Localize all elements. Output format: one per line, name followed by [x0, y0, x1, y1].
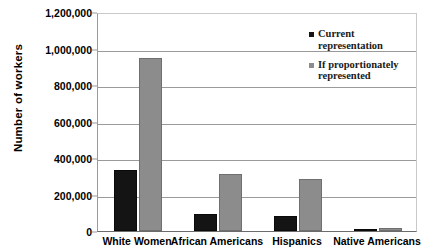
- chart-legend: CurrentrepresentationIf proportionatelyr…: [309, 28, 421, 89]
- legend-item: Currentrepresentation: [309, 28, 421, 52]
- y-axis-tick-label: 200,000: [54, 190, 92, 202]
- bar-chart: Number of workers 1,200,0001,000,000800,…: [0, 0, 425, 251]
- x-axis-tick-label: Native Americans: [333, 235, 421, 247]
- y-axis-title: Number of workers: [12, 18, 24, 178]
- bar: [194, 214, 217, 231]
- bar: [139, 58, 162, 231]
- black-square-icon: [309, 32, 314, 37]
- bar: [299, 179, 322, 231]
- y-axis-tick-label: 1,000,000: [45, 44, 92, 56]
- y-axis-tick-label: 800,000: [54, 80, 92, 92]
- legend-label: If proportionatelyrepresented: [318, 59, 399, 83]
- x-axis-tick-label: Hispanics: [272, 235, 322, 247]
- bar: [114, 170, 137, 231]
- bar: [354, 229, 377, 231]
- bar: [274, 216, 297, 232]
- gray-square-icon: [309, 63, 314, 68]
- x-axis-tick-label: White Women: [102, 235, 171, 247]
- legend-label: Currentrepresentation: [318, 28, 383, 52]
- x-axis-tick-label: African Americans: [171, 235, 263, 247]
- y-axis-tick-label: 1,200,000: [45, 7, 92, 19]
- legend-item: If proportionatelyrepresented: [309, 59, 421, 83]
- bar: [379, 228, 402, 231]
- y-axis-tick-label: 400,000: [54, 153, 92, 165]
- y-axis-tick-label: 600,000: [54, 117, 92, 129]
- bar: [219, 174, 242, 231]
